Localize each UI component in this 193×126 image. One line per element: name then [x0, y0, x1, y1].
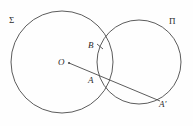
label-circle-sigma: Σ: [9, 16, 14, 25]
point-dot-o: [68, 62, 70, 64]
tick-mark-at-b: [97, 44, 103, 49]
label-point-a: A: [88, 76, 94, 85]
label-point-o: O: [58, 58, 65, 67]
geometry-figure: Σ Π O B A A′: [0, 0, 193, 126]
segment-o-to-a-prime: [69, 63, 160, 101]
circle-pi: [97, 20, 181, 104]
label-circle-pi: Π: [169, 17, 176, 26]
label-point-a-prime: A′: [159, 100, 166, 109]
label-point-b: B: [88, 41, 94, 50]
